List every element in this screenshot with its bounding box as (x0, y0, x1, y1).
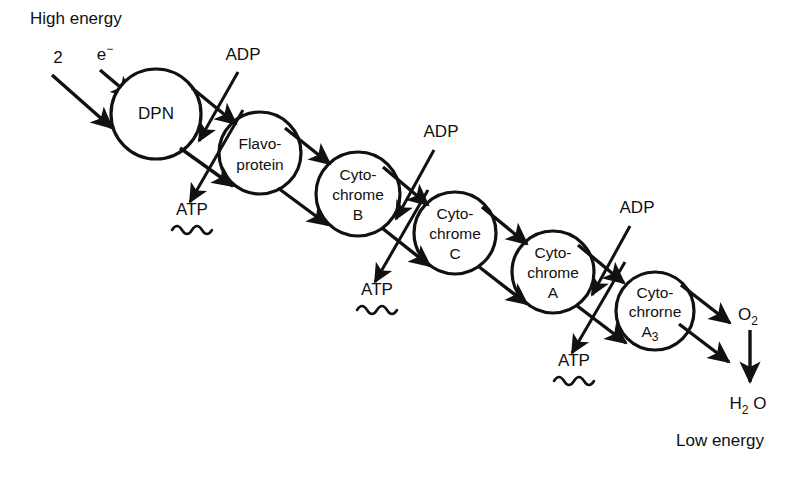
svg-text:e−: e− (97, 42, 113, 64)
high-energy-label: High energy (30, 9, 122, 28)
diagram-canvas: High energy 2 e− DPN Flavo- protein (0, 0, 805, 480)
low-energy-label: Low energy (676, 431, 764, 450)
carrier-label-cytochrome-c-line3: C (449, 245, 460, 262)
carrier-label-cytochrome-a3-letter: A (641, 323, 652, 340)
electron-transport-chain-diagram: High energy 2 e− DPN Flavo- protein (0, 0, 805, 480)
carrier-label-cytochrome-b-line2: chrome (332, 186, 384, 203)
adp-label-site-2: ADP (424, 122, 459, 141)
oxygen-label-base: O (738, 305, 751, 324)
carrier-label-cytochrome-b-line3: B (353, 206, 363, 223)
carrier-label-cytochrome-a-line2: chrome (527, 264, 579, 281)
carrier-label-dpn: DPN (138, 104, 174, 123)
carrier-label-cytochrome-b-line1: Cyto- (339, 166, 376, 183)
carrier-label-flavoprotein-line1: Flavo- (238, 135, 281, 152)
carrier-label-cytochrome-a-line1: Cyto- (534, 244, 571, 261)
carrier-label-flavoprotein-line2: protein (236, 156, 283, 173)
carrier-node-cytochrome-a3[interactable]: Cyto- chrorne A3 (616, 272, 694, 350)
carrier-label-cytochrome-c-line1: Cyto- (436, 205, 473, 222)
electron-symbol-charge: − (106, 42, 113, 56)
transfer-arrow-cyta3-to-oxygen-lower (679, 324, 729, 362)
electron-arrow-lower (52, 75, 112, 128)
carrier-label-cytochrome-a3-line2: chrorne (629, 303, 682, 320)
adp-label-site-3: ADP (620, 198, 655, 217)
high-energy-bond-squiggle-site-1 (172, 226, 212, 234)
carrier-node-dpn[interactable]: DPN (111, 69, 201, 159)
electron-symbol-label: e− (97, 42, 113, 64)
high-energy-bond-squiggle-site-3 (554, 377, 594, 385)
electron-symbol-base: e (97, 45, 106, 64)
oxygen-label: O2 (738, 305, 758, 328)
atp-label-site-3: ATP (558, 351, 590, 370)
water-label: H2 O (730, 394, 767, 417)
carrier-label-cytochrome-c-line2: chrome (429, 225, 481, 242)
carrier-label-cytochrome-a-line3: A (548, 284, 559, 301)
carrier-label-cytochrome-a3-line1: Cyto- (636, 284, 673, 301)
carrier-node-flavoprotein[interactable]: Flavo- protein (219, 112, 301, 194)
carrier-circle-flavoprotein (219, 112, 301, 194)
water-label-hydrogen: H (730, 394, 742, 413)
atp-label-site-2: ATP (361, 280, 393, 299)
oxygen-label-subscript: 2 (751, 314, 758, 328)
atp-label-site-1: ATP (176, 200, 208, 219)
adp-label-site-1: ADP (226, 45, 261, 64)
electron-count-label: 2 (53, 48, 62, 67)
carrier-label-cytochrome-a3-subscript: 3 (652, 330, 659, 344)
water-label-oxygen: O (753, 394, 766, 413)
high-energy-bond-squiggle-site-2 (357, 306, 397, 314)
